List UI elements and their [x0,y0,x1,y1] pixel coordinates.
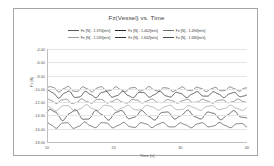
x-axis-line [47,142,247,143]
legend-label: Fz [N] - 1.370[m/s] [81,28,111,32]
legend-label: Fz [N] - 1.490[m/s] [176,28,206,32]
legend-color-swatch [68,30,79,31]
legend-color-swatch [68,37,79,38]
y-axis-tick-label: -6.00 [36,60,45,65]
legend-entry[interactable]: Fz [N] - 1.490[m/s] [163,29,206,33]
legend-color-swatch [163,37,174,38]
x-axis-tick-labels: 10203040 [47,145,247,152]
legend-entry[interactable]: Fz [N] - 1.680[m/s] [163,36,206,40]
legend-color-swatch [163,30,174,31]
series-line [47,105,247,111]
legend-row: Fz [N] - 1.370[m/s]Fz [N] - 1.402[m/s]Fz… [14,27,259,34]
chart-title: Fz(Vessel) vs. Time [14,14,259,21]
y-axis-line [47,49,48,142]
legend-label: Fz [N] - 1.535[m/s] [81,35,111,39]
legend-entry[interactable]: Fz [N] - 1.602[m/s] [115,36,158,40]
y-axis-tick-label: -16.00 [34,126,45,131]
gridline [47,76,247,77]
legend-entry[interactable]: Fz [N] - 1.370[m/s] [68,29,111,33]
gridline [47,129,247,130]
y-axis-tick-label: -12.00 [34,100,45,105]
gridline [47,102,247,103]
legend-color-swatch [115,37,126,38]
y-axis-tick-label: -10.00 [34,86,45,91]
series-line [47,122,247,128]
legend-label: Fz [N] - 1.402[m/s] [128,28,158,32]
x-axis-tick-label: 30 [178,145,182,150]
plot-area [47,49,247,142]
x-axis-tick-label: 10 [45,145,49,150]
y-axis-tick-labels: -4.00-6.00-8.00-10.00-12.00-14.00-16.00-… [14,49,45,142]
chart-legend: Fz [N] - 1.370[m/s]Fz [N] - 1.402[m/s]Fz… [14,27,259,41]
gridline [47,62,247,63]
gridline [47,115,247,116]
gridline [47,49,247,50]
x-axis-title: Time [s] [47,153,247,158]
x-axis-tick-label: 20 [111,145,115,150]
x-axis-tick-label: 40 [245,145,249,150]
y-axis-tick-label: -14.00 [34,113,45,118]
y-axis-tick-label: -18.00 [34,140,45,145]
legend-row: Fz [N] - 1.535[m/s]Fz [N] - 1.602[m/s]Fz… [14,34,259,41]
chart-frame: Fz(Vessel) vs. Time Fz [N] - 1.370[m/s]F… [13,8,258,156]
legend-entry[interactable]: Fz [N] - 1.402[m/s] [115,29,158,33]
gridline [47,89,247,90]
y-axis-tick-label: -4.00 [36,47,45,52]
legend-label: Fz [N] - 1.680[m/s] [176,35,206,39]
legend-label: Fz [N] - 1.602[m/s] [128,35,158,39]
legend-color-swatch [115,30,126,31]
y-axis-tick-label: -8.00 [36,73,45,78]
legend-entry[interactable]: Fz [N] - 1.535[m/s] [68,36,111,40]
